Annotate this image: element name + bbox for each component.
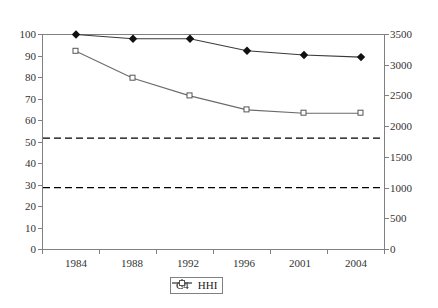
chart-legend: C4 HHI xyxy=(170,277,223,294)
plot-area xyxy=(0,0,438,308)
legend-item-hhi: HHI xyxy=(198,279,218,291)
series-markers-hhi xyxy=(73,48,363,115)
series-line-c4 xyxy=(76,35,361,58)
x-axis-ticks xyxy=(43,250,385,255)
legend-marker-open-square-icon xyxy=(171,278,193,288)
y2-axis-ticks xyxy=(385,35,390,250)
series-line-hhi xyxy=(76,51,361,113)
legend-label-hhi: HHI xyxy=(198,279,218,291)
y-axis-ticks xyxy=(38,35,43,250)
chart-container: 100 90 80 70 60 50 40 30 20 10 0 3500 30… xyxy=(0,0,438,308)
reference-lines xyxy=(43,138,384,187)
